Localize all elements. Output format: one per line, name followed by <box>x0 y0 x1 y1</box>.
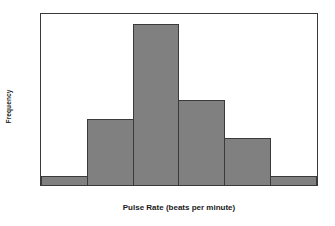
x-axis-tick-mark <box>87 185 88 186</box>
bar-series <box>41 14 317 185</box>
histogram-bar <box>224 138 271 186</box>
x-axis-title: Pulse Rate (beats per minute) <box>40 203 318 212</box>
x-axis-tick: 89.5 <box>265 185 277 186</box>
x-axis-tick: 69.5 <box>173 185 185 186</box>
y-axis-tick-mark <box>40 33 41 34</box>
x-axis-tick-mark <box>179 185 180 186</box>
y-axis-tick-mark <box>40 166 41 167</box>
x-axis-tick: 39.5 <box>40 185 47 186</box>
histogram-bar <box>270 176 317 185</box>
y-axis-tick-mark <box>40 14 41 15</box>
x-axis-tick: 59.5 <box>127 185 139 186</box>
x-axis-tick: 49.5 <box>81 185 93 186</box>
x-axis-tick-mark <box>225 185 226 186</box>
histogram-bar <box>178 100 225 186</box>
y-axis-title: Frequency <box>2 60 16 152</box>
y-axis-tick-mark <box>40 128 41 129</box>
x-axis-tick-mark <box>41 185 42 186</box>
histogram-bar <box>41 176 88 185</box>
y-axis-tick-mark <box>40 71 41 72</box>
y-axis-title-text: Frequency <box>6 89 13 123</box>
histogram-bar <box>87 119 134 186</box>
x-axis-tick-mark <box>271 185 272 186</box>
y-axis-tick-mark <box>40 90 41 91</box>
histogram-bar <box>133 24 180 186</box>
y-axis-tick-mark <box>40 52 41 53</box>
x-axis-tick-mark <box>133 185 134 186</box>
histogram-chart: Frequency 02468101214161839.549.559.569.… <box>0 0 335 226</box>
y-axis-tick-mark <box>40 109 41 110</box>
y-axis-tick-mark <box>40 147 41 148</box>
x-axis-tick-mark <box>317 185 318 186</box>
x-axis-tick: 79.5 <box>219 185 231 186</box>
x-axis-tick: 99.5 <box>311 185 318 186</box>
plot-area: 02468101214161839.549.559.569.579.589.59… <box>40 13 318 186</box>
